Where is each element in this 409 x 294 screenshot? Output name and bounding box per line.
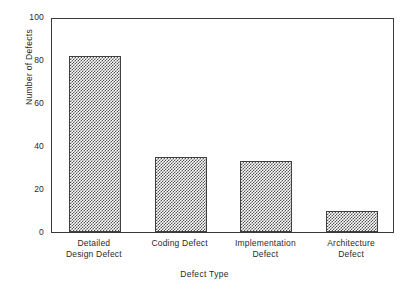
bar <box>326 211 378 233</box>
y-tick-label: 80 <box>14 55 44 65</box>
bar <box>240 161 292 232</box>
y-tick-label: 20 <box>14 184 44 194</box>
bar <box>155 157 207 232</box>
y-axis-title: Number of Defects <box>24 0 34 147</box>
x-axis-title: Defect Type <box>0 269 409 279</box>
y-tick-label: 100 <box>14 12 44 22</box>
bar <box>69 56 121 232</box>
plot-area <box>51 18 394 233</box>
x-tick-label: ArchitectureDefect <box>301 238 401 260</box>
y-tick-label: 40 <box>14 141 44 151</box>
y-tick-label: 60 <box>14 98 44 108</box>
bar-chart: Number of Defects 020406080100 DetailedD… <box>0 0 409 294</box>
y-tick-label: 0 <box>14 227 44 237</box>
